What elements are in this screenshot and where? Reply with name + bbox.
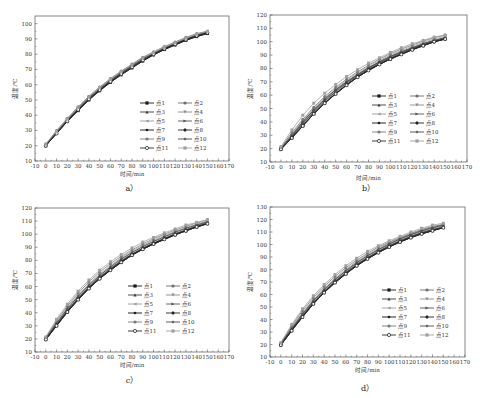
x-tick-label: 90 [139, 354, 146, 360]
legend-label-2: 点2 [194, 100, 204, 107]
legend-marker-6 [415, 112, 418, 115]
legend-label-2: 点2 [426, 93, 436, 100]
y-tick-label: 30 [25, 127, 32, 133]
data-point-series-12 [442, 222, 445, 225]
x-tick-label: 70 [118, 354, 125, 360]
data-point-series-12 [98, 86, 101, 89]
data-point-series-12 [206, 218, 209, 221]
data-point-series-12 [87, 279, 90, 282]
legend-label-10: 点10 [426, 129, 439, 136]
legend-marker-12 [171, 329, 174, 332]
series-line-7 [46, 34, 208, 146]
y-tick-label: 60 [25, 284, 32, 290]
data-point-series-12 [323, 283, 326, 286]
y-tick-label: 30 [260, 132, 267, 138]
data-point-series-12 [399, 235, 402, 238]
series-line-2 [46, 33, 208, 145]
data-point-series-12 [323, 92, 326, 95]
x-tick-label: 160 [213, 354, 224, 360]
x-axis-label: 时间/min [120, 170, 145, 178]
series-line-7 [281, 228, 444, 346]
data-point-series-12 [163, 231, 166, 234]
legend-marker-9 [145, 137, 148, 140]
y-tick-label: 20 [260, 146, 267, 152]
series-line-4 [281, 225, 444, 344]
series-line-1 [281, 228, 444, 346]
x-axis-label: 时间/min [355, 366, 380, 374]
legend-marker-1 [387, 288, 390, 291]
x-tick-label: 60 [342, 359, 349, 365]
y-tick-label: 20 [25, 336, 32, 342]
legend-label-5: 点5 [388, 111, 398, 118]
data-point-series-12 [420, 227, 423, 230]
data-point-series-12 [279, 145, 282, 148]
y-tick-label: 10 [25, 349, 32, 355]
data-point-series-11 [334, 92, 337, 95]
legend-label-8: 点8 [426, 120, 436, 127]
legend-label-11: 点11 [388, 138, 401, 145]
legend-marker-12 [415, 139, 418, 142]
legend-marker-2 [415, 94, 418, 97]
x-tick-label: 150 [202, 354, 213, 360]
data-point-series-12 [444, 34, 447, 37]
data-point-series-11 [433, 40, 436, 43]
legend-marker-2 [425, 288, 428, 291]
series-line-1 [46, 34, 208, 146]
x-tick-label: 130 [418, 164, 429, 170]
y-tick-label: 70 [260, 279, 267, 285]
data-point-series-11 [366, 257, 369, 260]
y-tick-label: 90 [25, 36, 32, 42]
legend-marker-9 [387, 324, 390, 327]
y-tick-label: 110 [257, 25, 268, 31]
y-tick-label: 90 [25, 244, 32, 250]
x-tick-label: 150 [440, 164, 451, 170]
data-point-series-12 [55, 130, 58, 133]
x-axis-label: 时间/min [356, 174, 381, 182]
legend-label-10: 点10 [436, 323, 449, 330]
x-axis-label: 时间/min [120, 361, 145, 369]
data-point-series-12 [279, 341, 282, 344]
data-point-series-12 [344, 264, 347, 267]
data-point-series-12 [301, 114, 304, 117]
y-tick-label: 120 [257, 12, 268, 18]
series-line-5 [281, 225, 444, 344]
legend-marker-12 [425, 333, 428, 336]
series-line-12 [46, 31, 208, 144]
x-tick-label: 10 [288, 164, 295, 170]
series-line-1 [281, 39, 445, 149]
legend-label-12: 点12 [436, 332, 449, 339]
series-line-11 [281, 39, 445, 149]
panel-caption: d） [361, 384, 374, 393]
data-point-series-11 [422, 44, 425, 47]
legend-label-8: 点8 [436, 314, 446, 321]
data-point-series-12 [55, 318, 58, 321]
data-point-series-12 [388, 239, 391, 242]
data-point-series-12 [290, 323, 293, 326]
data-point-series-11 [377, 251, 380, 254]
legend-marker-7 [377, 121, 380, 124]
data-point-series-12 [290, 128, 293, 131]
x-tick-label: 10 [288, 359, 295, 365]
legend-marker-8 [171, 312, 174, 315]
legend-label-3: 点3 [156, 109, 166, 116]
legend-marker-5 [387, 306, 390, 309]
x-tick-label: 60 [107, 354, 114, 360]
series-line-10 [46, 32, 208, 145]
x-tick-label: 80 [129, 354, 136, 360]
legend-marker-11 [133, 329, 136, 332]
x-tick-label: 90 [375, 359, 382, 365]
legend-marker-5 [133, 302, 136, 305]
data-point-series-12 [301, 307, 304, 310]
data-point-series-11 [184, 229, 187, 232]
legend-label-9: 点9 [388, 129, 398, 136]
y-tick-label: 120 [22, 205, 33, 211]
x-tick-label: 120 [407, 164, 418, 170]
y-tick-label: 100 [22, 231, 33, 237]
data-point-series-11 [87, 287, 90, 290]
legend-marker-1 [145, 101, 148, 104]
series-line-6 [46, 32, 208, 145]
x-tick-label: 50 [332, 164, 339, 170]
x-tick-label: 110 [159, 354, 170, 360]
x-tick-label: 100 [384, 359, 395, 365]
data-point-series-12 [184, 224, 187, 227]
